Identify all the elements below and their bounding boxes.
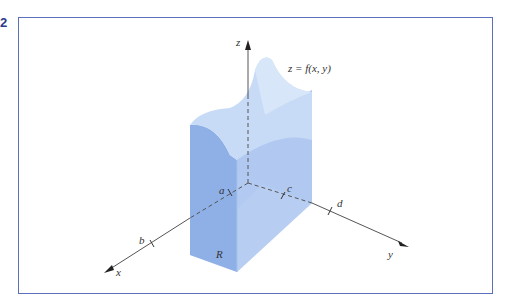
tick-label-d: d xyxy=(337,197,343,209)
surface-label: z = f(x, y) xyxy=(287,62,331,75)
region-label: R xyxy=(215,248,223,260)
z-axis-label: z xyxy=(235,36,241,48)
tick-label-b: b xyxy=(139,234,145,246)
y-axis-label: y xyxy=(387,248,393,260)
tick-label-a: a xyxy=(219,184,225,196)
solid-under-surface-diagram: z z = f(x, y) x y a b c d R xyxy=(0,0,510,307)
x-axis-label: x xyxy=(115,266,121,278)
tick-label-c: c xyxy=(287,182,292,194)
